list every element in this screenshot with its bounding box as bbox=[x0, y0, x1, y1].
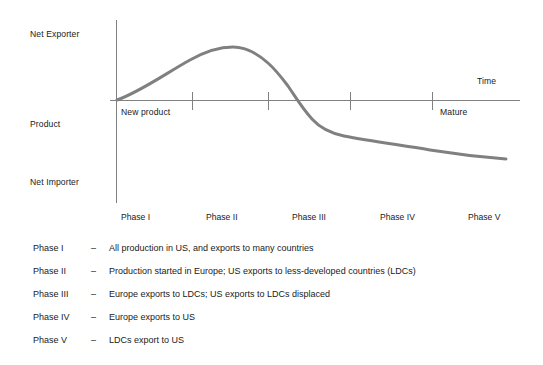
legend-dash: – bbox=[91, 243, 109, 253]
legend-phase-label: Phase IV bbox=[0, 312, 91, 322]
x-axis-label-time: Time bbox=[477, 77, 496, 86]
legend-description: LDCs export to US bbox=[109, 335, 184, 345]
legend-description: Production started in Europe; US exports… bbox=[109, 266, 416, 276]
legend-description: All production in US, and exports to man… bbox=[109, 243, 314, 253]
x-tick-label-phase-1: Phase I bbox=[121, 213, 150, 222]
legend-row: Phase III – Europe exports to LDCs; US e… bbox=[0, 289, 543, 312]
y-axis-label-product: Product bbox=[30, 120, 60, 129]
y-axis-label-net-exporter: Net Exporter bbox=[30, 30, 79, 39]
legend-dash: – bbox=[91, 312, 109, 322]
product-life-cycle-diagram: Net Exporter Product Net Importer New pr… bbox=[0, 0, 543, 365]
legend-phase-label: Phase I bbox=[0, 243, 91, 253]
legend-phase-label: Phase V bbox=[0, 335, 91, 345]
annotation-new-product: New product bbox=[121, 108, 170, 117]
x-tick-label-phase-3: Phase III bbox=[292, 213, 326, 222]
legend-description: Europe exports to US bbox=[109, 312, 195, 322]
legend-row: Phase II – Production started in Europe;… bbox=[0, 266, 543, 289]
trade-position-curve bbox=[117, 47, 506, 159]
legend-phase-label: Phase II bbox=[0, 266, 91, 276]
legend-dash: – bbox=[91, 289, 109, 299]
legend-dash: – bbox=[91, 266, 109, 276]
legend-row: Phase I – All production in US, and expo… bbox=[0, 243, 543, 266]
x-tick-label-phase-2: Phase II bbox=[206, 213, 238, 222]
legend-phase-label: Phase III bbox=[0, 289, 91, 299]
legend-dash: – bbox=[91, 335, 109, 345]
phase-legend-list: Phase I – All production in US, and expo… bbox=[0, 243, 543, 358]
legend-row: Phase IV – Europe exports to US bbox=[0, 312, 543, 335]
x-tick-label-phase-4: Phase IV bbox=[380, 213, 415, 222]
x-tick-label-phase-5: Phase V bbox=[468, 213, 501, 222]
annotation-mature: Mature bbox=[440, 108, 467, 117]
chart-area: Net Exporter Product Net Importer New pr… bbox=[0, 0, 543, 232]
y-axis-label-net-importer: Net Importer bbox=[30, 178, 79, 187]
legend-row: Phase V – LDCs export to US bbox=[0, 335, 543, 358]
legend-description: Europe exports to LDCs; US exports to LD… bbox=[109, 289, 330, 299]
